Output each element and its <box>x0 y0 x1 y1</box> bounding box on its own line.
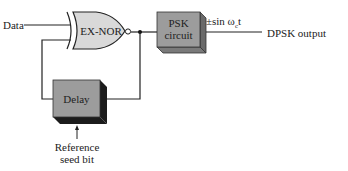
psk-label-line2: circuit <box>157 29 200 41</box>
dpsk-output-label: DPSK output <box>267 27 326 39</box>
psk-label-line1: PSK <box>157 17 200 29</box>
exnor-gate-label: EX-NOR <box>78 25 124 37</box>
delay-label: Delay <box>53 93 100 105</box>
carrier-label: ±sin ωct <box>206 15 241 32</box>
reference-label-line1: Reference <box>47 141 107 153</box>
data-label: Data <box>3 19 24 31</box>
carrier-label-main: ±sin ω <box>206 15 235 27</box>
reference-arrow-head <box>75 125 79 130</box>
carrier-label-suffix: t <box>238 15 241 27</box>
xor-input-curve <box>67 12 71 49</box>
reference-label-line2: seed bit <box>47 153 107 165</box>
inverter-bubble <box>125 29 130 34</box>
